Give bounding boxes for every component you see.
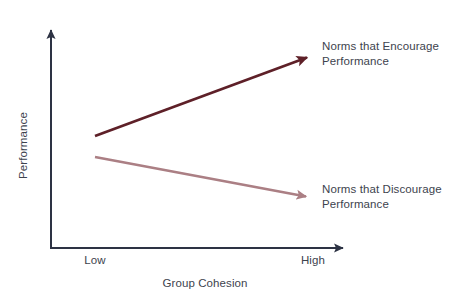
series-label-encourage: Norms that Encourage Performance [322, 39, 439, 69]
x-axis-label: Group Cohesion [0, 276, 410, 291]
series-label-discourage-line2: Performance [322, 197, 442, 212]
series-label-discourage: Norms that Discourage Performance [322, 182, 442, 212]
y-axis-label: Performance [16, 94, 31, 198]
series-label-encourage-line1: Norms that Encourage [322, 39, 439, 54]
encourage-trend-arrow [95, 58, 307, 137]
y-axis-label-container: Performance [0, 92, 44, 202]
series-label-discourage-line1: Norms that Discourage [322, 182, 442, 197]
discourage-trend-arrow [95, 157, 306, 197]
series-label-encourage-line2: Performance [322, 54, 439, 69]
series-encourage-line [95, 58, 307, 137]
x-tick-label-high: High [278, 253, 348, 268]
x-tick-label-low: Low [60, 253, 130, 268]
chart-figure: Performance Group Cohesion Low High Norm… [0, 0, 476, 305]
series-discourage-line [95, 157, 306, 197]
